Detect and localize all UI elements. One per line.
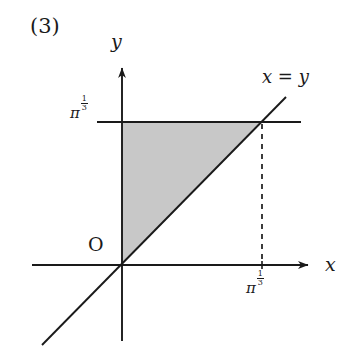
origin-label: O	[88, 235, 104, 254]
y-axis-tick-label: π13	[70, 97, 88, 121]
x-axis-label: x	[325, 255, 336, 274]
exponent-denominator: 3	[81, 104, 88, 112]
exponent-numerator: 1	[81, 95, 88, 103]
x-axis-tick-label: π13	[246, 272, 264, 296]
coordinate-plot	[0, 0, 349, 363]
line-equation-label: x = y	[262, 68, 309, 86]
exponent-denominator: 3	[257, 279, 264, 287]
exponent-fraction: 13	[81, 95, 88, 112]
exponent-fraction: 13	[257, 270, 264, 287]
figure-canvas: (3) y x O x = y π13 π13	[0, 0, 349, 363]
pi-symbol-icon: π	[70, 104, 80, 122]
x-tick-pi-power: π13	[246, 272, 264, 296]
pi-symbol-icon: π	[246, 279, 256, 297]
problem-number-label: (3)	[30, 16, 60, 37]
y-axis-label: y	[111, 32, 122, 51]
y-tick-pi-power: π13	[70, 97, 88, 121]
exponent-numerator: 1	[257, 270, 264, 278]
